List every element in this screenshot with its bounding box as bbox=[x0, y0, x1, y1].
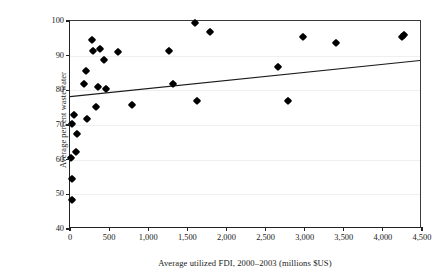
y-axis-tick bbox=[66, 194, 70, 195]
x-axis-tick-label: 4,000 bbox=[373, 234, 392, 242]
data-point bbox=[68, 174, 77, 183]
data-point bbox=[332, 39, 341, 48]
data-point bbox=[101, 85, 110, 94]
y-axis-tick bbox=[66, 124, 70, 125]
data-point bbox=[169, 80, 178, 89]
y-axis-tick-label: 50 bbox=[56, 190, 64, 198]
x-axis-tick bbox=[265, 227, 266, 231]
data-point bbox=[127, 101, 136, 110]
x-axis-tick bbox=[421, 227, 422, 231]
x-axis-tick-label: 0 bbox=[68, 234, 72, 242]
data-point bbox=[192, 96, 201, 105]
x-axis-title: Average utilized FDI, 2000–2003 (million… bbox=[69, 258, 421, 268]
data-point bbox=[274, 63, 283, 72]
x-axis-tick-label: 4,500 bbox=[413, 234, 432, 242]
y-axis-tick bbox=[66, 20, 70, 21]
y-axis-tick bbox=[66, 159, 70, 160]
data-point bbox=[82, 67, 91, 76]
data-point bbox=[73, 129, 82, 138]
y-axis-tick bbox=[66, 55, 70, 56]
data-point bbox=[100, 56, 109, 65]
y-axis-tick-label: 70 bbox=[56, 121, 64, 129]
plot-area: 40506070809010005001,0001,5002,0002,5003… bbox=[69, 20, 421, 228]
x-axis-tick-label: 3,000 bbox=[295, 234, 314, 242]
data-point bbox=[70, 110, 79, 119]
data-points-layer bbox=[70, 21, 420, 227]
x-axis-tick bbox=[304, 227, 305, 231]
x-axis-tick bbox=[69, 227, 70, 231]
y-axis-tick-label: 40 bbox=[56, 225, 64, 233]
x-axis-tick bbox=[148, 227, 149, 231]
x-axis-tick-label: 3,500 bbox=[334, 234, 353, 242]
data-point bbox=[284, 97, 293, 106]
x-axis-tick bbox=[187, 227, 188, 231]
x-axis-tick-label: 2,000 bbox=[217, 234, 236, 242]
data-point bbox=[91, 103, 100, 112]
x-axis-tick bbox=[382, 227, 383, 231]
data-point bbox=[88, 36, 97, 45]
x-axis-tick-label: 500 bbox=[103, 234, 116, 242]
data-point bbox=[82, 114, 91, 123]
x-axis-tick-label: 2,500 bbox=[256, 234, 275, 242]
y-axis-tick-label: 60 bbox=[56, 155, 64, 163]
data-point bbox=[94, 82, 103, 91]
data-point bbox=[165, 47, 174, 56]
y-axis-tick-label: 80 bbox=[56, 86, 64, 94]
x-axis-tick bbox=[343, 227, 344, 231]
data-point bbox=[206, 28, 215, 37]
x-axis-tick bbox=[109, 227, 110, 231]
data-point bbox=[114, 48, 123, 57]
x-axis-tick-label: 1,000 bbox=[139, 234, 158, 242]
y-axis-tick-label: 90 bbox=[56, 51, 64, 59]
y-axis-tick bbox=[66, 90, 70, 91]
y-axis-tick-label: 100 bbox=[51, 17, 64, 25]
x-axis-tick bbox=[226, 227, 227, 231]
data-point bbox=[67, 196, 76, 205]
data-point bbox=[95, 44, 104, 53]
data-point bbox=[191, 18, 200, 27]
data-point bbox=[80, 80, 89, 89]
data-point bbox=[299, 33, 308, 42]
scatter-chart-figure: Average percent wastewater meeting disch… bbox=[0, 0, 446, 280]
x-axis-tick-label: 1,500 bbox=[178, 234, 197, 242]
